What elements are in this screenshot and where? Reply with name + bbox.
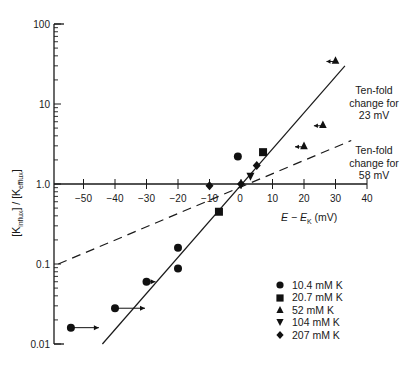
y-tick-label: 1.0 [36,179,50,190]
square-marker-icon [276,294,283,301]
annotation-text: Ten-fold [355,144,393,156]
y-tick-label: 100 [33,19,50,30]
circle-marker-icon [111,304,119,312]
circle-marker-icon [174,244,182,252]
y-axis-label: [Kinflux] / [Kefflux] [10,148,24,258]
x-tick-label: −40 [107,193,124,204]
x-tick-label: 10 [267,193,279,204]
legend: 10.4 mM K20.7 mM K52 mM K104 mM K207 mM … [275,279,343,341]
triangle-up-icon [275,305,285,315]
triangle-down-marker-icon [276,319,283,326]
circle-icon [275,280,285,290]
annotation-text: 58 mV [359,169,389,181]
legend-item: 20.7 mM K [275,291,343,303]
square-icon [275,293,285,303]
arrowhead-icon [94,325,99,330]
x-tick-label: 40 [361,193,373,204]
diamond-icon [275,330,285,340]
diamond-marker-icon [206,181,214,190]
circle-marker-icon [174,264,182,272]
diamond-marker-icon [276,331,283,339]
legend-item: 10.4 mM K [275,279,343,291]
x-tick-label: 20 [298,193,310,204]
legend-label: 10.4 mM K [292,279,343,291]
circle-marker-icon [234,153,242,161]
annotation-text: Ten-fold [355,84,393,96]
y-tick-label: 0.01 [31,339,51,350]
annotation-text: change for [349,157,399,169]
square-marker-icon [215,208,223,216]
x-axis-label: E − EK (mV) [281,211,337,225]
legend-label: 52 mM K [292,304,334,316]
arrowhead-icon [140,306,145,311]
annotation-text: 23 mV [359,109,389,121]
y-tick-label: 10 [39,99,51,110]
diamond-marker-icon [237,180,245,189]
arrowhead-icon [327,59,331,63]
diamond-marker-icon [253,161,261,170]
x-tick-label: −20 [170,193,187,204]
x-tick-label: −50 [75,193,92,204]
x-tick-label: 30 [330,193,342,204]
triangle-up-marker-icon [319,120,327,128]
legend-label: 104 mM K [292,316,340,328]
legend-label: 207 mM K [292,329,340,341]
arrowhead-icon [295,145,299,149]
x-tick-label: 0 [237,193,243,204]
legend-item: 104 mM K [275,316,343,328]
circle-marker-icon [276,282,283,289]
legend-item: 52 mM K [275,304,343,316]
y-tick-label: 0.1 [36,259,50,270]
legend-label: 20.7 mM K [292,291,343,303]
annotation-text: change for [349,97,399,109]
triangle-up-marker-icon [332,56,340,64]
triangle-up-marker-icon [276,306,283,313]
arrowhead-icon [314,124,318,128]
legend-item: 207 mM K [275,329,343,341]
annotations: Ten-foldchange for23 mVTen-foldchange fo… [349,84,399,181]
circle-marker-icon [143,278,151,286]
x-tick-label: −30 [138,193,155,204]
square-marker-icon [259,148,267,156]
triangle-down-icon [275,317,285,327]
triangle-up-marker-icon [300,142,308,150]
circle-marker-icon [67,324,75,332]
